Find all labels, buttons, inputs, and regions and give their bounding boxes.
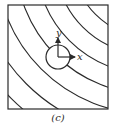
contour-line <box>16 0 116 94</box>
figure-c: y x (c) <box>0 0 116 129</box>
x-axis-label: x <box>77 51 83 62</box>
diagram-canvas: y x <box>0 0 116 129</box>
figure-caption: (c) <box>0 111 116 125</box>
contour-line <box>92 0 116 18</box>
y-axis-label: y <box>55 27 62 38</box>
